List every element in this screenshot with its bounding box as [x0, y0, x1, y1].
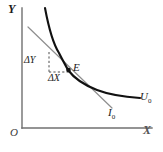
- delta-y-label: ΔY: [24, 55, 35, 65]
- point-e-label: E: [73, 62, 80, 73]
- indifference-curve-figure: Y X O E U0 I0 ΔY ΔX: [0, 0, 163, 152]
- point-e-marker: [66, 68, 71, 73]
- origin-label: O: [10, 127, 18, 138]
- line-i0-label: I0: [108, 107, 115, 121]
- x-axis-label: X: [143, 124, 151, 136]
- y-axis-label: Y: [8, 3, 15, 15]
- indifference-curve-u0: [45, 8, 140, 98]
- tangent-line-i0: [28, 27, 112, 108]
- line-i0-subscript: 0: [112, 113, 116, 121]
- delta-x-label: ΔX: [48, 73, 60, 83]
- curve-u0-label: U0: [140, 91, 151, 105]
- figure-canvas: [0, 0, 163, 152]
- curve-u0-subscript: 0: [148, 97, 152, 105]
- curve-u0-letter: U: [140, 90, 148, 102]
